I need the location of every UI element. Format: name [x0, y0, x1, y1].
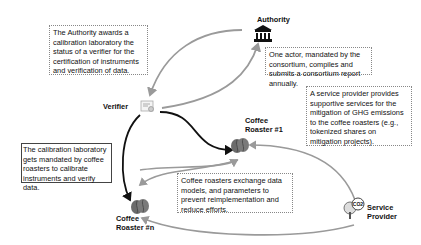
- note-data-exchange: Coffee roasters exchange data models, an…: [177, 173, 293, 213]
- coffee-bean-icon: [230, 136, 250, 154]
- note-authority-awards: The Authority awards a calibration labor…: [49, 25, 148, 75]
- co2-tree-icon: CO2: [342, 196, 366, 220]
- service-provider-label-line2: Provider: [367, 212, 397, 221]
- roaster1-label-line1: Coffee: [245, 116, 283, 125]
- note-consortium-report: One actor, mandated by the consortium, c…: [265, 47, 372, 75]
- note-calibration-lab: The calibration laboratory gets mandated…: [21, 143, 112, 183]
- certificate-document-icon: [140, 100, 156, 114]
- arrow-verifier-to-roastern: [123, 115, 140, 200]
- roaster1-label-line2: Roaster #1: [245, 125, 283, 134]
- service-provider-label: Service Provider: [367, 203, 397, 221]
- authority-label: Authority: [257, 15, 290, 24]
- arrow-roastern-to-roaster1: [140, 160, 237, 170]
- roaster1-label: Coffee Roaster #1: [245, 116, 283, 134]
- roastern-label: Coffee Roaster #n: [116, 214, 154, 232]
- co2-text: CO2: [353, 201, 364, 207]
- coffee-bean-icon-n: [130, 197, 150, 215]
- bank-building-icon: [254, 25, 272, 42]
- note-service-provider: A service provider provides supportive s…: [306, 86, 412, 146]
- roastern-label-line1: Coffee: [116, 214, 154, 223]
- service-provider-label-line1: Service: [367, 203, 397, 212]
- arrow-verifier-to-roaster1: [160, 112, 232, 150]
- roastern-label-line2: Roaster #n: [116, 223, 154, 232]
- arrow-provider-to-roastern: [142, 218, 354, 235]
- verifier-label: Verifier: [103, 102, 128, 111]
